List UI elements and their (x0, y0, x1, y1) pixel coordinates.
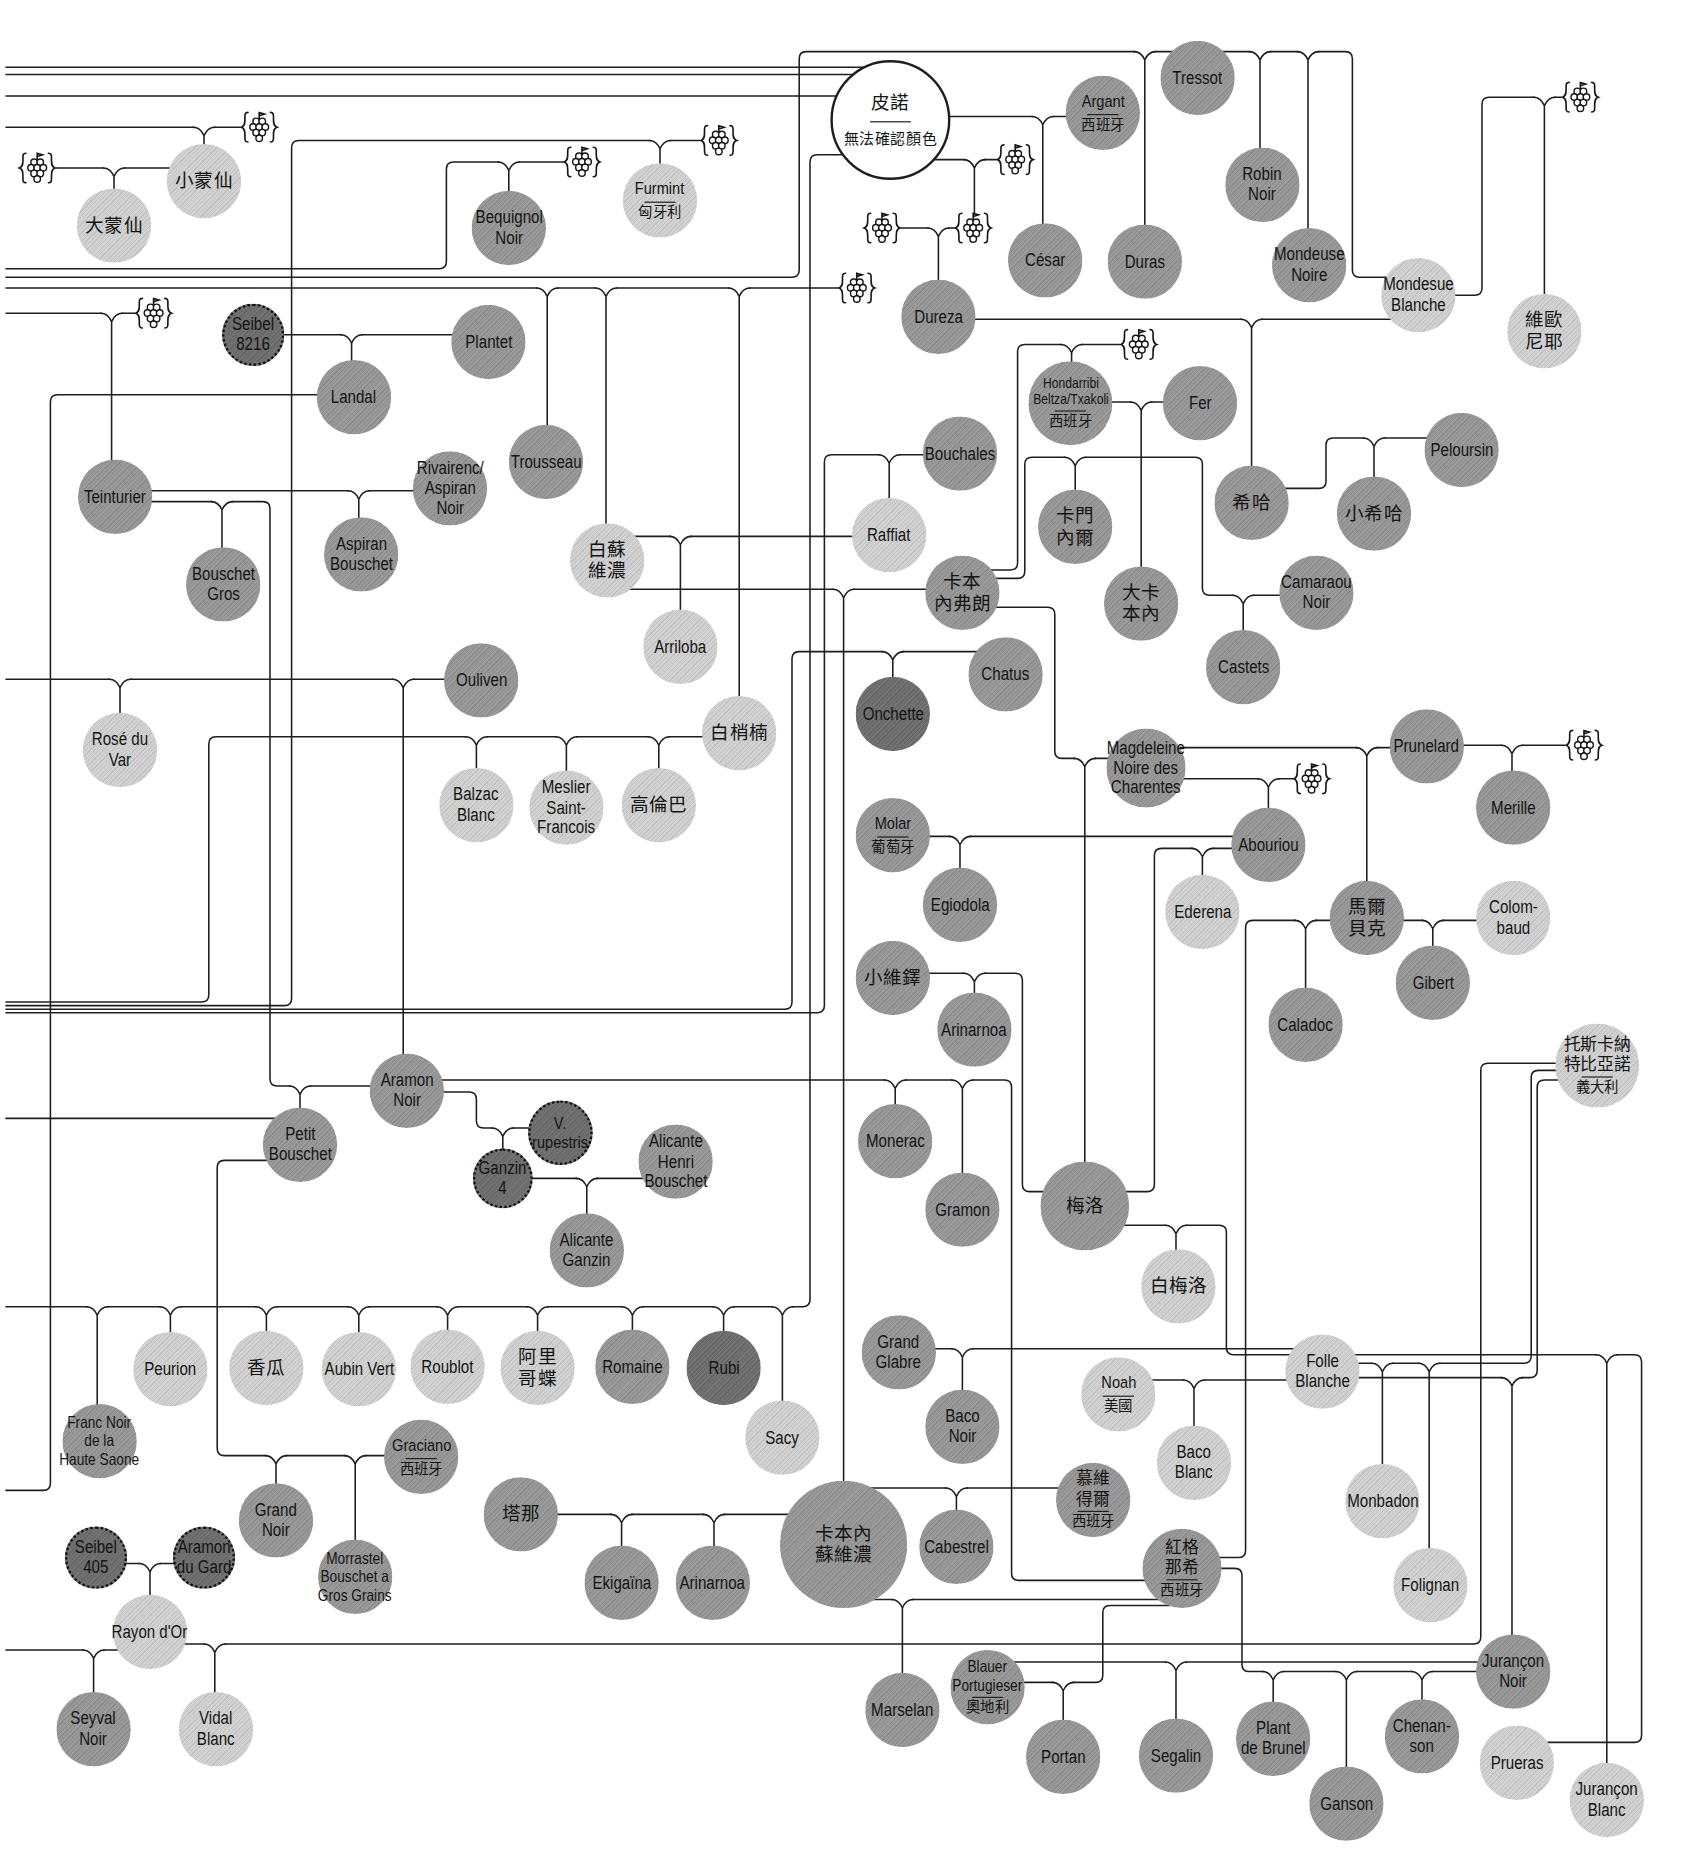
variety-name: Roublot (422, 1357, 474, 1377)
variety-node-ganzin-4: Ganzin 4 (473, 1148, 533, 1208)
origin-divider (1166, 1579, 1197, 1580)
origin-divider (1055, 410, 1086, 411)
variety-name: Chenan- son (1393, 1716, 1451, 1756)
variety-node-jurancon-blanc: Jurançon Blanc (1570, 1763, 1644, 1837)
variety-name: Egiodola (931, 895, 990, 915)
variety-node-marselan: Marselan (865, 1673, 939, 1747)
variety-node-malbec: 馬爾 貝克 (1330, 881, 1404, 955)
variety-node-teinturier: Teinturier (78, 460, 152, 534)
variety-node-viognier: 維歐 尼耶 (1507, 294, 1581, 368)
variety-node-magdeleine: Magdeleine Noire des Charentes (1106, 728, 1185, 807)
variety-node-baco-noir: Baco Noir (925, 1390, 999, 1464)
variety-name: Marselan (871, 1700, 933, 1720)
origin-divider (870, 121, 911, 122)
variety-name: 皮諾 (871, 92, 909, 114)
variety-name: 白蘇 維濃 (588, 538, 626, 582)
variety-node-romaine: Romaine (595, 1330, 669, 1404)
variety-name: Merille (1491, 798, 1536, 818)
variety-name: 小蒙仙 (175, 170, 233, 192)
variety-node-xiang-gua: 香瓜 (229, 1331, 303, 1405)
variety-node-molar: Molar葡萄牙 (856, 798, 930, 872)
variety-node-meslier: Meslier Saint- Francois (529, 770, 603, 844)
grape-parentage-diagram: 小蒙仙大蒙仙Bequignol NoirFurmint匈牙利皮諾無法確認顏色Ar… (0, 0, 1691, 1869)
variety-node-petite-sirah: 小希哈 (1337, 476, 1411, 550)
variety-node-roublot: Roublot (410, 1330, 484, 1404)
variety-node-da-meng-xian: 大蒙仙 (77, 188, 151, 262)
variety-origin: 葡萄牙 (871, 840, 914, 857)
variety-name: Jurançon Blanc (1576, 1780, 1638, 1820)
variety-name: Hondarribi Beltza/Txakoli (1033, 376, 1109, 408)
variety-name: Chatus (982, 664, 1030, 684)
variety-name: Bouchales (925, 444, 996, 464)
variety-name: Alicante Henri Bouschet (644, 1131, 707, 1191)
variety-name: Vidal Blanc (197, 1709, 235, 1749)
variety-name: Sacy (766, 1428, 800, 1448)
variety-node-monbadon: Monbadon (1345, 1464, 1419, 1538)
variety-name: Prueras (1490, 1753, 1543, 1773)
variety-node-portan: Portan (1026, 1720, 1100, 1794)
variety-name: 小維鐸 (864, 967, 922, 989)
variety-node-balzac-blanc: Balzac Blanc (439, 768, 513, 842)
variety-node-segalin: Segalin (1139, 1718, 1213, 1792)
variety-node-ouliven: Ouliven (444, 643, 518, 717)
variety-node-grand-glabre: Grand Glabre (862, 1315, 936, 1389)
variety-name: Argant (1081, 92, 1124, 111)
variety-name: Seyval Noir (71, 1709, 116, 1749)
origin-divider (1087, 114, 1118, 115)
variety-name: Folle Blanche (1295, 1351, 1350, 1391)
variety-node-seibel-405: Seibel 405 (65, 1526, 127, 1588)
variety-origin: 西班牙 (400, 1461, 443, 1478)
variety-name: César (1025, 250, 1065, 270)
variety-name: 阿里 哥蝶 (518, 1346, 556, 1390)
variety-node-aubin-vert: Aubin Vert (322, 1332, 396, 1406)
origin-divider (406, 1458, 437, 1459)
variety-node-xiao-meng-xian: 小蒙仙 (167, 144, 241, 218)
variety-name: Peloursin (1430, 440, 1493, 460)
variety-name: Arriloba (654, 637, 706, 657)
variety-name: Arinarnoa (680, 1573, 746, 1593)
variety-name: Rubi (708, 1358, 739, 1378)
variety-name: Onchette (862, 704, 923, 724)
variety-node-tressot: Tressot (1160, 41, 1234, 115)
variety-name: Mondesue Blanche (1383, 275, 1454, 315)
variety-node-jurancon-noir: Jurançon Noir (1476, 1634, 1550, 1708)
variety-node-v-rupestris: V. rupestris (528, 1100, 593, 1165)
variety-name: Franc Noir de la Haute Saone (60, 1414, 140, 1469)
variety-name: Noah (1101, 1373, 1136, 1392)
variety-node-ederena: Ederena (1165, 875, 1239, 949)
variety-node-onchette: Onchette (856, 677, 930, 751)
variety-node-vidal-blanc: Vidal Blanc (179, 1692, 253, 1766)
variety-name: Ganson (1320, 1794, 1373, 1814)
variety-name: Abouriou (1238, 835, 1299, 855)
variety-node-syrah: 希哈 (1214, 466, 1288, 540)
variety-name: Segalin (1151, 1746, 1201, 1766)
variety-node-ekigaina: Ekigaïna (584, 1546, 658, 1620)
variety-node-trousseau: Trousseau (509, 425, 583, 499)
variety-node-peurion: Peurion (133, 1332, 207, 1406)
variety-node-pinot: 皮諾無法確認顏色 (830, 60, 950, 180)
variety-name: Romaine (602, 1357, 663, 1377)
variety-name: 紅格 那希 (1165, 1537, 1199, 1577)
variety-name: Baco Noir (945, 1407, 979, 1447)
variety-node-rose-du-var: Rosé du Var (83, 713, 157, 787)
variety-name: Aubin Vert (324, 1359, 393, 1379)
variety-node-bouschet-gros: Bouschet Gros (186, 547, 260, 621)
variety-node-trebbiano: 托斯卡納 特比亞諾義大利 (1555, 1024, 1639, 1108)
variety-origin: 美國 (1104, 1399, 1133, 1416)
variety-node-argant: Argant西班牙 (1066, 76, 1140, 150)
variety-name: Bequignol Noir (475, 208, 542, 248)
variety-node-colombard: 高倫巴 (622, 768, 696, 842)
variety-nodes: 小蒙仙大蒙仙Bequignol NoirFurmint匈牙利皮諾無法確認顏色Ar… (0, 0, 1691, 1869)
variety-node-petit-verdot: 小維鐸 (856, 941, 930, 1015)
variety-name: Balzac Blanc (454, 785, 499, 825)
variety-name: Tressot (1173, 68, 1223, 88)
variety-name: Duras (1125, 252, 1165, 272)
variety-node-prunelard: Prunelard (1390, 709, 1464, 783)
variety-name: 維歐 尼耶 (1525, 309, 1563, 353)
variety-name: Plant de Brunel (1241, 1719, 1306, 1759)
variety-name: Dureza (914, 307, 963, 327)
variety-node-sauvignon-blanc: 白蘇 維濃 (570, 523, 644, 597)
variety-name: Gramon (935, 1200, 990, 1220)
variety-name: 慕維 得爾 (1076, 1469, 1110, 1509)
variety-node-robin-noir: Robin Noir (1225, 148, 1299, 222)
